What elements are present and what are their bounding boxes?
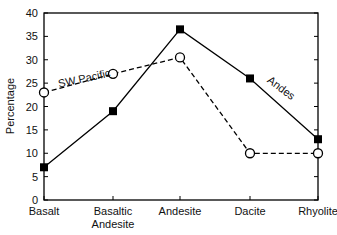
circle-marker — [176, 53, 185, 62]
x-category-label: Basalt — [29, 205, 60, 217]
x-category-label: Andesite — [159, 205, 202, 217]
series-label-sw-pacific: SW Pacific — [57, 67, 112, 90]
y-tick-label: 10 — [26, 147, 38, 159]
y-tick-label: 40 — [26, 7, 38, 19]
y-axis-label: Percentage — [4, 78, 16, 134]
circle-marker — [246, 149, 255, 158]
square-marker — [246, 74, 254, 82]
circle-marker — [314, 149, 323, 158]
series-lines — [44, 29, 318, 167]
y-tick-label: 35 — [26, 30, 38, 42]
plot-border — [44, 13, 318, 200]
x-axis-ticks: BasaltBasalticAndesiteAndesiteDaciteRhyo… — [29, 196, 337, 230]
chart: 0510152025303540 BasaltBasalticAndesiteA… — [0, 0, 337, 235]
square-marker — [109, 107, 117, 115]
series-markers — [40, 25, 323, 171]
square-marker — [176, 25, 184, 33]
circle-marker — [40, 88, 49, 97]
y-tick-label: 25 — [26, 77, 38, 89]
series-label-andes: Andes — [265, 74, 298, 103]
square-marker — [314, 135, 322, 143]
series-line-andes — [44, 29, 318, 167]
y-tick-label: 15 — [26, 124, 38, 136]
y-axis-ticks: 0510152025303540 — [26, 7, 318, 206]
x-category-label: Rhyolite — [298, 205, 337, 217]
x-category-label: Andesite — [92, 218, 135, 230]
plot-frame — [44, 13, 318, 200]
y-tick-label: 5 — [32, 171, 38, 183]
y-tick-label: 20 — [26, 101, 38, 113]
x-category-label: Basaltic — [94, 205, 133, 217]
square-marker — [40, 163, 48, 171]
y-tick-label: 30 — [26, 54, 38, 66]
x-category-label: Dacite — [234, 205, 265, 217]
